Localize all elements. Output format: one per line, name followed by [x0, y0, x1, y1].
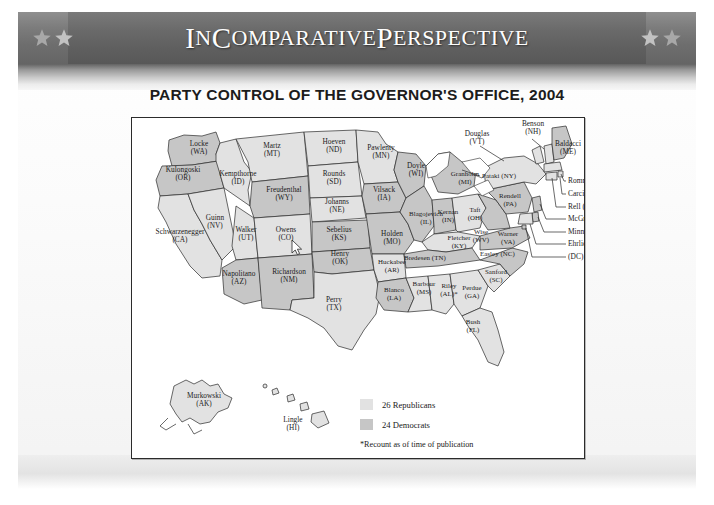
map-label-mn: Pawlenty(MN): [358, 144, 404, 160]
state-shape-hi-1: [272, 388, 279, 395]
map-label-oh: Taft(OH): [460, 206, 490, 222]
banner-title-part: OMPARATIVE: [232, 27, 377, 49]
map-label-wy: Freudenthal(WY): [254, 186, 314, 202]
figure-title: PARTY CONTROL OF THE GOVERNOR'S OFFICE, …: [18, 86, 696, 104]
map-label-tn: Bredesen (TN): [404, 254, 474, 262]
map-label-nj: McGreevey (NJ): [568, 215, 585, 223]
map-label-ga: Perdue(GA): [454, 284, 490, 300]
state-shape-hi-5: [263, 384, 267, 388]
state-shape-md: [518, 213, 533, 224]
map-label-ca: Schwarzenegger(CA): [138, 228, 222, 244]
map-label-vt: Douglas(VT): [454, 130, 500, 146]
paper-bottom-shadow: [18, 455, 696, 489]
banner-title-part: C: [212, 24, 232, 53]
map-label-hi: Lingle(HI): [272, 416, 314, 432]
legend-swatch-republican: [360, 399, 373, 410]
legend-row-democrats: 24 Democrats: [360, 419, 435, 430]
map-label-ok: Henry(OK): [318, 250, 362, 266]
map-label-ia: Vilsack(IA): [364, 186, 404, 202]
legend-label-democrats: 24 Democrats: [382, 420, 430, 430]
map-label-ct: Rell (CT): [568, 203, 585, 211]
map-label-or: Kulongoski(OR): [152, 166, 214, 182]
state-shape-dc: [522, 225, 526, 229]
map-label-wi: Doyle(WI): [398, 162, 434, 178]
map-label-wa: Locke(WA): [176, 140, 222, 156]
banner-title: IN COMPARATIVE PERSPECTIVE: [18, 12, 696, 64]
map-legend: 26 Republicans 24 Democrats: [360, 399, 435, 439]
legend-footnote: *Recount as of time of publication: [360, 440, 473, 449]
map-figure-box: Locke(WA) Kulongoski(OR) Schwarzenegger(…: [131, 117, 585, 459]
state-shape-nj: [532, 196, 542, 212]
map-label-fl: Bush(FL): [458, 318, 488, 334]
map-label-ma: Romney (MA): [568, 177, 585, 185]
map-label-mo: Holden(MO): [370, 230, 414, 246]
map-label-wv: Wise(WV): [466, 228, 496, 244]
state-shape-hi-2: [287, 394, 295, 402]
state-shape-hi-3: [300, 402, 309, 411]
banner-stars-right: [640, 12, 682, 64]
map-label-sd: Rounds(SD): [312, 170, 356, 186]
state-shape-de: [532, 212, 539, 222]
star-icon: [640, 28, 660, 48]
map-label-dc: (DC): [568, 253, 583, 261]
map-label-ks: Sebelius(KS): [314, 226, 364, 242]
page-root: IN COMPARATIVE PERSPECTIVE PARTY CONTROL…: [0, 0, 714, 505]
map-label-ny: Pataki (NY): [482, 172, 536, 180]
map-label-de: Minner (DE): [568, 228, 585, 236]
star-icon: [662, 28, 682, 48]
legend-label-republicans: 26 Republicans: [382, 400, 435, 410]
state-shape-fl: [462, 308, 504, 366]
banner-title-part: N: [195, 27, 211, 49]
map-label-mt: Martz(MT): [250, 142, 294, 158]
state-shape-ct: [546, 172, 557, 180]
map-label-md: Ehrlich (MD): [568, 240, 585, 248]
map-label-nh: Benson(NH): [510, 120, 556, 136]
legend-row-republicans: 26 Republicans: [360, 399, 435, 410]
banner-title-part: P: [376, 24, 393, 53]
section-banner: IN COMPARATIVE PERSPECTIVE: [18, 12, 696, 64]
map-label-ne: Johanns(NE): [314, 198, 360, 214]
map-label-pa: Rendell(PA): [490, 192, 530, 208]
map-label-nd: Hoeven(ND): [312, 138, 356, 154]
map-label-nc: Easley (NC): [480, 250, 542, 258]
map-label-sc: Sanford(SC): [480, 268, 512, 284]
banner-title-part: ERSPECTIVE: [393, 27, 529, 49]
map-label-ak: Murkowski(AK): [176, 392, 232, 408]
map-label-ut: Walker(UT): [226, 226, 266, 242]
map-label-co: Owens(CO): [264, 226, 308, 242]
map-label-id: Kempthorne(ID): [212, 170, 264, 186]
legend-swatch-democrat: [360, 419, 373, 430]
map-label-me: Baldacci(ME): [546, 140, 585, 156]
map-label-ri: Carcieri (RI): [568, 190, 585, 198]
map-label-tx: Perry(TX): [314, 296, 354, 312]
banner-title-part: I: [185, 24, 195, 53]
map-label-nm: Richardson(NM): [260, 268, 318, 284]
state-shape-ma: [544, 162, 562, 172]
